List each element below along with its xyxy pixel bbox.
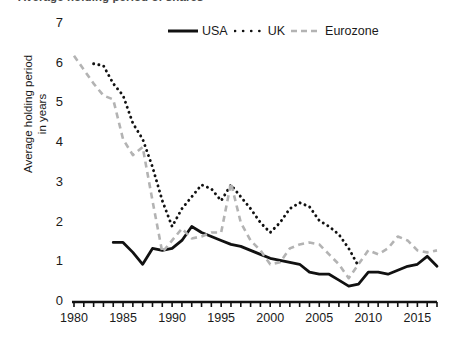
chart-container: Average holding period of shares Average…: [0, 0, 456, 342]
y-axis-tick-label: 4: [41, 134, 63, 149]
x-axis-tick-label: 2015: [394, 311, 440, 325]
x-axis-tick-label: 2010: [345, 311, 391, 325]
x-axis-tick-label: 1980: [51, 311, 97, 325]
series-line-usa: [113, 227, 437, 287]
y-axis-tick-label: 0: [41, 293, 63, 308]
y-axis-tick-label: 3: [41, 174, 63, 189]
series-line-uk: [94, 64, 359, 267]
x-axis-tick-label: 1985: [100, 311, 146, 325]
plot-area: [0, 0, 456, 342]
y-axis-tick-label: 7: [41, 15, 63, 30]
x-axis-tick-label: 2005: [296, 311, 342, 325]
series-line-eurozone: [74, 56, 437, 278]
y-axis-tick-label: 5: [41, 94, 63, 109]
y-axis-tick-label: 2: [41, 214, 63, 229]
x-axis-tick-label: 2000: [247, 311, 293, 325]
x-axis-tick-label: 1995: [198, 311, 244, 325]
y-axis-tick-label: 1: [41, 253, 63, 268]
x-axis-tick-label: 1990: [149, 311, 195, 325]
y-axis-tick-label: 6: [41, 55, 63, 70]
